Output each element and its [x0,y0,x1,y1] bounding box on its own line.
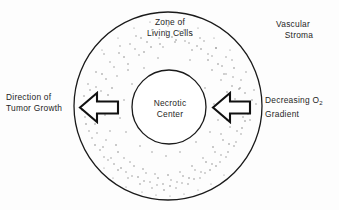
label-necrotic-center-line2: Center [140,109,200,120]
diagram-page: Zone of Living Cells Vascular Stroma Nec… [0,0,339,210]
label-decreasing-o2-gradient-line1: Decreasing O2 [265,95,323,109]
label-zone-of-living-cells-line1: Zone of [134,17,206,28]
label-vascular-stroma-line1: Vascular [262,19,324,30]
label-direction-of-tumor-growth: Direction of Tumor Growth [6,92,62,113]
label-decreasing-o2-gradient: Decreasing O2 Gradient [265,95,323,119]
label-vascular-stroma: Vascular Stroma [262,19,324,40]
label-direction-of-tumor-growth-line2: Tumor Growth [6,103,62,114]
label-decreasing-o2-subscript: 2 [319,100,323,106]
label-decreasing-o2-gradient-line2: Gradient [265,109,323,120]
left-growth-arrow [80,93,118,122]
label-necrotic-center-line1: Necrotic [140,98,200,109]
label-vascular-stroma-line2: Stroma [262,30,324,41]
label-zone-of-living-cells-line2: Living Cells [134,28,206,39]
label-zone-of-living-cells: Zone of Living Cells [134,17,206,38]
label-direction-of-tumor-growth-line1: Direction of [6,92,62,103]
right-gradient-arrow [213,93,250,122]
label-decreasing-o2-prefix: Decreasing O [265,95,319,105]
label-necrotic-center: Necrotic Center [140,98,200,119]
